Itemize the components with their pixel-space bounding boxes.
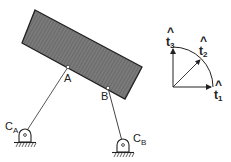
label-cb: CB bbox=[133, 132, 146, 147]
link-a-ca bbox=[26, 67, 68, 132]
linkage-diagram: A B CA CB t3 ^ t2 ^ t1 ^ bbox=[0, 0, 231, 162]
label-t2-hat: ^ bbox=[200, 34, 207, 48]
label-ca: CA bbox=[5, 120, 19, 135]
support-cb-icon bbox=[112, 139, 134, 157]
label-a: A bbox=[64, 72, 72, 84]
pin-a-icon bbox=[66, 65, 70, 69]
vector-t2 bbox=[173, 60, 200, 87]
label-t3-hat: ^ bbox=[167, 25, 174, 39]
label-t1-hat: ^ bbox=[215, 78, 222, 92]
rigid-block bbox=[22, 10, 142, 99]
label-b: B bbox=[101, 90, 108, 102]
